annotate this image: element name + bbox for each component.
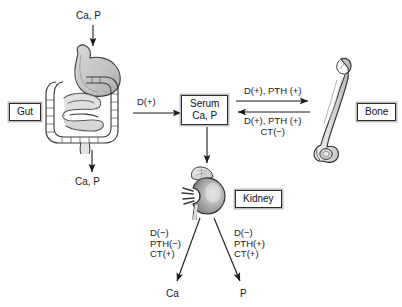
kidney-ca-annotation: D(−) PTH(−) CT(+)	[150, 228, 181, 260]
fecal-loss-label: Ca, P	[75, 176, 100, 187]
serum-to-bone-annotation: D(+), PTH (+)	[244, 86, 302, 97]
kidney-ca-line3: CT(+)	[150, 249, 181, 260]
kidney-p-line1: D(−)	[234, 228, 265, 239]
intake-label: Ca, P	[76, 10, 101, 21]
kidney-ca-line1: D(−)	[150, 228, 181, 239]
gut-to-serum-annotation: D(+)	[137, 97, 156, 108]
homeostasis-diagram: Ca, P Ca, P Gut Serum Ca, P Bone Kidney …	[0, 0, 402, 307]
kidney-label-box: Kidney	[235, 190, 282, 208]
serum-label-box: Serum Ca, P	[181, 95, 228, 125]
urine-p-label: P	[240, 288, 247, 299]
kidney-adrenal-illustration	[178, 163, 236, 221]
kidney-p-line3: CT(+)	[234, 249, 265, 260]
bone-label-box: Bone	[357, 103, 396, 121]
urine-ca-label: Ca	[166, 288, 179, 299]
kidney-p-annotation: D(−) PTH(+) CT(+)	[234, 228, 265, 260]
serum-label-line2: Ca, P	[190, 110, 219, 122]
bone-to-serum-line2: CT(−)	[244, 127, 302, 138]
gut-label-box: Gut	[9, 103, 41, 121]
bone-to-serum-annotation: D(+), PTH (+) CT(−)	[244, 116, 302, 137]
serum-label-line1: Serum	[190, 98, 219, 110]
bone-to-serum-line1: D(+), PTH (+)	[244, 116, 302, 127]
femur-bone-illustration	[303, 56, 357, 166]
gastrointestinal-tract-illustration	[34, 42, 154, 154]
